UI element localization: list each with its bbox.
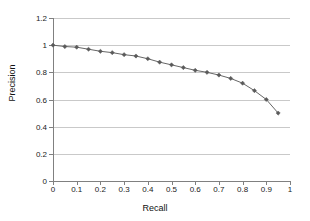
x-tick-label: 0 [51,185,55,194]
x-tick-label: 0.4 [142,185,153,194]
x-tick-label: 0.9 [261,185,272,194]
x-tick-label: 1 [288,185,292,194]
gridline [53,45,290,46]
gridline [53,18,290,19]
x-tick-label: 0.7 [213,185,224,194]
x-tick-label: 0.6 [190,185,201,194]
gridline [53,154,290,155]
x-tick-label: 0.5 [166,185,177,194]
x-tick-label: 0.1 [71,185,82,194]
gridline [53,72,290,73]
y-tick-label: 0 [0,177,54,186]
x-tick-label: 0.2 [95,185,106,194]
y-tick-label: 0.2 [0,149,54,158]
gridline [53,100,290,101]
x-tick-label: 0.3 [119,185,130,194]
y-axis-title: Precision [7,43,17,123]
y-tick-label: 1.2 [0,14,54,23]
x-axis-title: Recall [0,203,310,213]
y-tick-label: 0.4 [0,122,54,131]
x-tick-label: 0.8 [237,185,248,194]
gridline [53,127,290,128]
plot-area [53,18,290,181]
precision-recall-chart: 00.20.40.60.811.2 00.10.20.30.40.50.60.7… [0,0,310,221]
